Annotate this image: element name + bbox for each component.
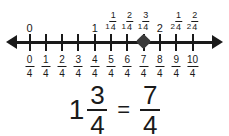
top-fraction: 24 [126, 11, 133, 32]
bottom-denominator: 4 [27, 68, 33, 79]
bottom-fraction-bar [155, 66, 164, 67]
top-fraction: 34 [142, 11, 149, 32]
bottom-fraction-label: 104 [187, 54, 198, 79]
bottom-denominator: 4 [190, 68, 196, 79]
bottom-denominator: 4 [108, 68, 114, 79]
bottom-fraction-label: 14 [41, 54, 50, 79]
bottom-denominator: 4 [141, 68, 147, 79]
equation-left-denominator: 4 [90, 112, 104, 136]
number-line: 011141241342214224 041424344454647484941… [0, 0, 229, 80]
bottom-fraction-bar [90, 66, 99, 67]
top-denominator: 4 [142, 23, 149, 32]
tick-mark [110, 34, 112, 51]
top-whole-number: 1 [92, 23, 98, 34]
top-denominator: 4 [110, 23, 117, 32]
arrow-left-icon [6, 35, 17, 49]
bottom-fraction-label: 74 [139, 54, 148, 79]
bottom-fraction-label: 64 [123, 54, 132, 79]
bottom-denominator: 4 [173, 68, 179, 79]
tick-mark [61, 34, 63, 51]
bottom-numerator: 0 [27, 54, 33, 65]
bottom-numerator: 6 [125, 54, 131, 65]
top-fraction: 14 [110, 11, 117, 32]
bottom-fraction-bar [107, 66, 116, 67]
math-figure: 011141241342214224 041424344454647484941… [0, 0, 229, 136]
equation-right-numerator: 7 [143, 82, 157, 108]
bottom-fraction-label: 34 [74, 54, 83, 79]
bottom-denominator: 4 [125, 68, 131, 79]
bottom-fraction-bar [139, 66, 148, 67]
bottom-fraction-bar [41, 66, 50, 67]
bottom-fraction-label: 84 [155, 54, 164, 79]
top-value-label: 0 [26, 23, 32, 34]
bottom-denominator: 4 [76, 68, 82, 79]
bottom-numerator: 4 [92, 54, 98, 65]
bottom-denominator: 4 [43, 68, 49, 79]
top-value-label: 124 [122, 11, 133, 32]
bottom-numerator: 7 [141, 54, 147, 65]
bottom-numerator: 9 [173, 54, 179, 65]
tick-mark [29, 34, 31, 51]
bottom-numerator: 3 [76, 54, 82, 65]
top-value-label: 214 [170, 11, 181, 32]
tick-mark [126, 34, 128, 51]
top-value-label: 2 [157, 23, 163, 34]
top-numerator: 1 [110, 11, 117, 20]
bottom-numerator: 10 [187, 54, 198, 65]
tick-mark [45, 34, 47, 51]
top-numerator: 2 [191, 11, 198, 20]
equation-left-numerator: 3 [90, 82, 104, 108]
top-numerator: 1 [175, 11, 182, 20]
bottom-denominator: 4 [59, 68, 65, 79]
equation-left-mixed-number: 1 3 4 [69, 82, 108, 136]
bottom-fraction-label: 54 [107, 54, 116, 79]
equation-left-fraction: 3 4 [87, 82, 107, 136]
top-whole-number: 0 [26, 23, 32, 34]
tick-mark [77, 34, 79, 51]
bottom-fraction-bar [25, 66, 34, 67]
equation-right-denominator: 4 [143, 112, 157, 136]
top-value-label: 1 [92, 23, 98, 34]
bottom-fraction-bar [74, 66, 83, 67]
bottom-fraction-label: 94 [172, 54, 181, 79]
top-fraction: 14 [175, 11, 182, 32]
bottom-numerator: 5 [108, 54, 114, 65]
tick-mark [192, 34, 194, 51]
top-numerator: 3 [142, 11, 149, 20]
tick-mark [159, 34, 161, 51]
top-value-label: 134 [138, 11, 149, 32]
bottom-numerator: 8 [157, 54, 163, 65]
tick-mark [94, 34, 96, 51]
top-whole-number: 2 [157, 23, 163, 34]
bottom-fraction-label: 44 [90, 54, 99, 79]
bottom-fraction-bar [123, 66, 132, 67]
bottom-fraction-bar [58, 66, 67, 67]
bottom-fraction-bar [172, 66, 181, 67]
bottom-fraction-label: 04 [25, 54, 34, 79]
bottom-numerator: 1 [43, 54, 49, 65]
equation-right-fraction: 7 4 [140, 82, 160, 136]
equation: 1 3 4 = 7 4 [0, 84, 229, 136]
equation-left-whole: 1 [69, 96, 85, 124]
top-value-label: 224 [187, 11, 198, 32]
bottom-denominator: 4 [157, 68, 163, 79]
bottom-fraction-bar [187, 66, 198, 67]
arrow-right-icon [212, 35, 223, 49]
equals-sign: = [113, 99, 134, 121]
top-denominator: 4 [126, 23, 133, 32]
bottom-denominator: 4 [92, 68, 98, 79]
top-fraction: 24 [191, 11, 198, 32]
top-denominator: 4 [175, 23, 182, 32]
top-numerator: 2 [126, 11, 133, 20]
top-denominator: 4 [191, 23, 198, 32]
bottom-numerator: 2 [59, 54, 65, 65]
point-marker-diamond-icon [136, 34, 152, 50]
tick-mark [175, 34, 177, 51]
bottom-fraction-label: 24 [58, 54, 67, 79]
top-value-label: 114 [105, 11, 116, 32]
